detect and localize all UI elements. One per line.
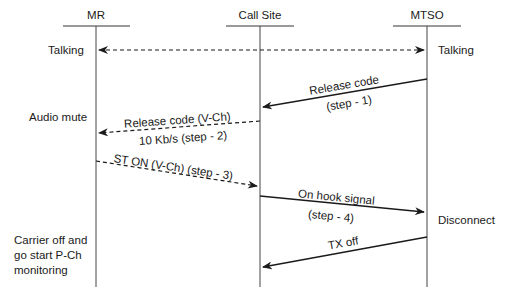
- carrier-off-note-line1: Carrier off and: [14, 233, 87, 248]
- mtso-talking-note: Talking: [438, 43, 474, 58]
- disconnect-note: Disconnect: [438, 213, 495, 228]
- carrier-off-note-line2: go start P-Ch: [14, 248, 82, 263]
- carrier-off-note-line3: monitoring: [14, 263, 68, 278]
- mr-talking-note: Talking: [48, 43, 84, 58]
- mr-header: MR: [56, 8, 136, 23]
- audio-mute-note: Audio mute: [29, 110, 87, 125]
- callsite-header: Call Site: [220, 8, 300, 23]
- mtso-header: MTSO: [387, 8, 467, 23]
